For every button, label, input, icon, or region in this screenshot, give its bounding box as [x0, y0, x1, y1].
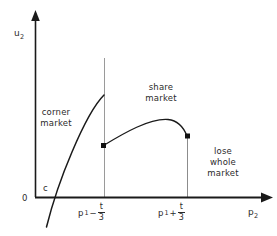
share-market-line-2: market [137, 93, 185, 104]
lower-threshold-fraction: t 3 [98, 203, 105, 222]
x-axis-label-subscript: 2 [254, 212, 258, 220]
y-axis-label: u2 [14, 28, 24, 43]
lower-threshold-numerator: t [98, 203, 105, 211]
share-market-region-label: share market [137, 82, 185, 104]
lower-threshold-operator: − [90, 208, 97, 218]
upper-threshold-denominator: 3 [178, 214, 185, 222]
right-kink-point-marker [185, 134, 190, 139]
lower-threshold-denominator: 3 [98, 214, 105, 222]
upper-threshold-operator: + [170, 208, 177, 218]
upper-threshold-fraction: t 3 [178, 203, 185, 222]
lose-whole-market-line-3: market [198, 168, 248, 179]
corner-market-region-label: corner market [33, 107, 79, 129]
y-axis-label-subscript: 2 [20, 33, 24, 41]
left-kink-point-marker [101, 143, 106, 148]
upper-threshold-tick-label: p1 + t 3 [158, 203, 185, 222]
corner-market-line-1: corner [33, 107, 79, 118]
x-axis-arrowhead [261, 193, 273, 203]
intercept-label: c [43, 183, 48, 194]
lower-threshold-base: p [78, 208, 83, 218]
share-market-curve [104, 119, 188, 145]
share-market-line-1: share [137, 82, 185, 93]
price-competition-regions-figure: u2 0 c corner market share market lose w… [0, 0, 277, 236]
lower-threshold-subscript: 1 [84, 209, 88, 217]
upper-threshold-base: p [158, 208, 163, 218]
upper-threshold-numerator: t [178, 203, 185, 211]
corner-market-line-2: market [33, 118, 79, 129]
x-axis-label: p2 [248, 207, 258, 222]
upper-threshold-subscript: 1 [164, 209, 168, 217]
y-axis-arrowhead [31, 10, 40, 21]
lose-whole-market-region-label: lose whole market [198, 146, 248, 179]
origin-label: 0 [22, 193, 28, 204]
lower-threshold-tick-label: p1 − t 3 [78, 203, 105, 222]
lose-whole-market-line-2: whole [198, 157, 248, 168]
lose-whole-market-line-1: lose [198, 146, 248, 157]
